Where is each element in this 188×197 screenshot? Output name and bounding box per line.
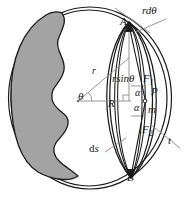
label-mass-m: m: [148, 104, 156, 115]
label-thickness-t: t: [168, 135, 171, 146]
diagram-canvas: [0, 0, 188, 197]
force-f1-symbol: F: [143, 72, 150, 84]
point-a-marker: [127, 21, 130, 24]
label-angle-alpha-lower: α: [134, 103, 139, 113]
label-radius-capital-r: R: [108, 98, 115, 109]
ds-s-symbol: s: [95, 142, 99, 154]
label-arc-length-rdtheta: rdθ: [142, 5, 157, 16]
label-angle-alpha-upper: α: [135, 88, 140, 98]
label-point-p: P: [151, 86, 158, 97]
label-point-a: A: [120, 16, 127, 27]
label-force-f2: F2: [142, 124, 152, 138]
force-f2-symbol: F: [142, 123, 149, 135]
force-f2-subscript: 2: [149, 129, 153, 138]
point-p-marker: [143, 99, 147, 103]
tangent-line-lower: [136, 19, 166, 32]
label-chord-height-rsintheta: rsinθ: [112, 73, 135, 84]
label-arc-element-ds: ds: [89, 143, 99, 154]
label-radius-r: r: [92, 66, 96, 76]
physics-diagram-figure: A rdθ B θ r R rsinθ F1 P α α m F2 t ds: [0, 0, 188, 197]
label-point-b: B: [127, 172, 134, 183]
label-angle-theta: θ: [78, 91, 83, 102]
